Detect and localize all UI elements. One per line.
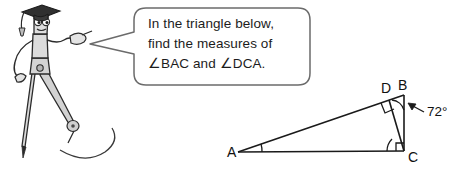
triangle-diagram	[238, 95, 424, 152]
vertex-label-c: C	[408, 150, 418, 164]
compass-character	[14, 5, 115, 158]
pencil-tip	[68, 131, 74, 143]
compass-needle-tip	[22, 146, 26, 158]
angle-pointer-arrowhead	[408, 103, 416, 110]
compass-needle-leg	[22, 70, 38, 147]
bubble-line-3: ∠BAC and ∠DCA.	[148, 54, 308, 74]
compass-pencil-leg	[40, 70, 76, 129]
right-pupil	[46, 21, 49, 24]
worksheet-image: In the triangle below, find the measures…	[0, 0, 461, 170]
left-hand	[15, 74, 26, 82]
hinge-screw	[37, 65, 43, 71]
pointing-finger	[82, 31, 92, 35]
vertex-label-b: B	[398, 78, 407, 92]
segment-ab	[238, 95, 404, 152]
angle-arc-dca	[387, 139, 392, 151]
angle-measure-label: 72°	[427, 104, 447, 119]
angle-arc-bac	[261, 144, 262, 152]
angle-arc-b	[392, 100, 404, 110]
cap-tassel-cord	[21, 12, 24, 30]
vertex-label-a: A	[227, 145, 236, 159]
pencil-clamp-screw	[71, 124, 75, 128]
cap-tassel	[19, 28, 25, 36]
compass-torso	[32, 34, 48, 58]
speech-bubble-text: In the triangle below, find the measures…	[148, 14, 308, 74]
bubble-line-1: In the triangle below,	[148, 14, 308, 34]
segment-ac	[238, 151, 404, 152]
bubble-line-2: find the measures of	[148, 34, 308, 54]
vertex-label-d: D	[381, 81, 391, 95]
